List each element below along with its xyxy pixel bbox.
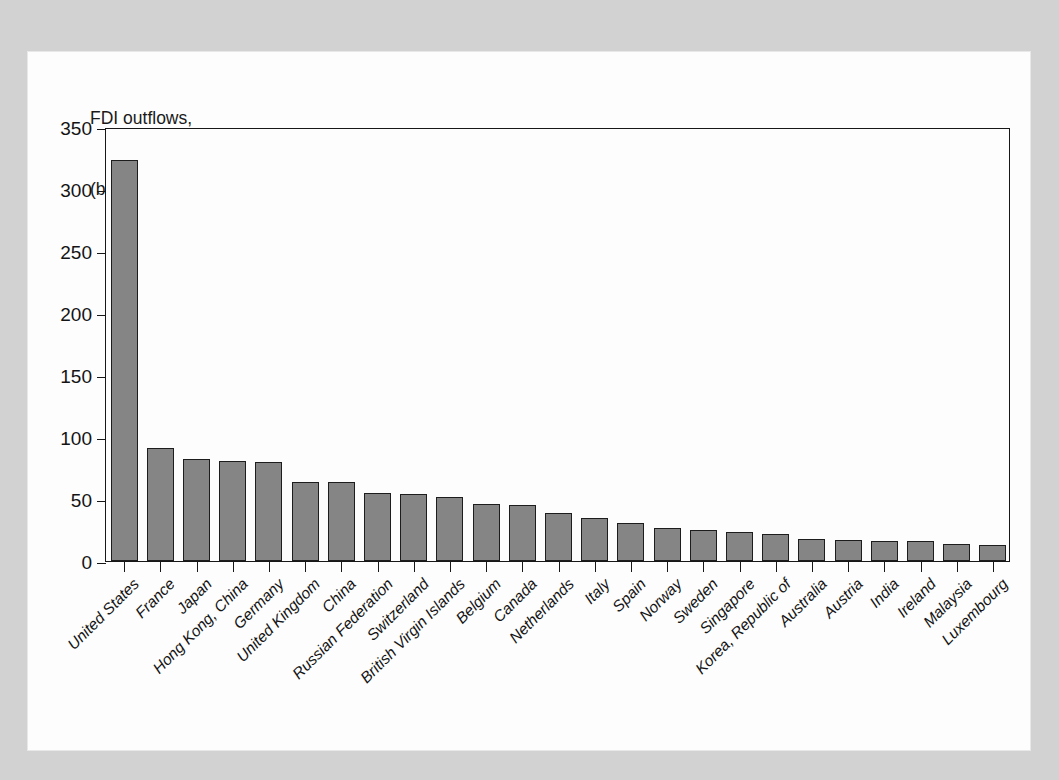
x-tick-mark bbox=[124, 561, 125, 572]
chart-page: FDI outflows, (billions of U.S. dollars)… bbox=[0, 0, 1059, 780]
y-tick-mark bbox=[97, 191, 106, 192]
y-tick-label: 0 bbox=[81, 552, 92, 574]
y-tick-mark bbox=[97, 377, 106, 378]
y-tick-mark bbox=[97, 129, 106, 130]
y-tick-mark bbox=[97, 563, 106, 564]
y-tick-label: 200 bbox=[60, 304, 92, 326]
y-tick-label: 250 bbox=[60, 242, 92, 264]
bar bbox=[111, 160, 138, 561]
y-tick-label: 100 bbox=[60, 428, 92, 450]
y-tick-mark bbox=[97, 315, 106, 316]
y-tick-label: 150 bbox=[60, 366, 92, 388]
y-tick-mark bbox=[97, 501, 106, 502]
y-tick-label: 300 bbox=[60, 180, 92, 202]
y-tick-mark bbox=[97, 253, 106, 254]
y-tick-mark bbox=[97, 439, 106, 440]
x-axis-labels: United StatesFranceJapanHong Kong, China… bbox=[105, 575, 1010, 705]
y-tick-label: 350 bbox=[60, 118, 92, 140]
y-tick-label: 50 bbox=[71, 490, 92, 512]
